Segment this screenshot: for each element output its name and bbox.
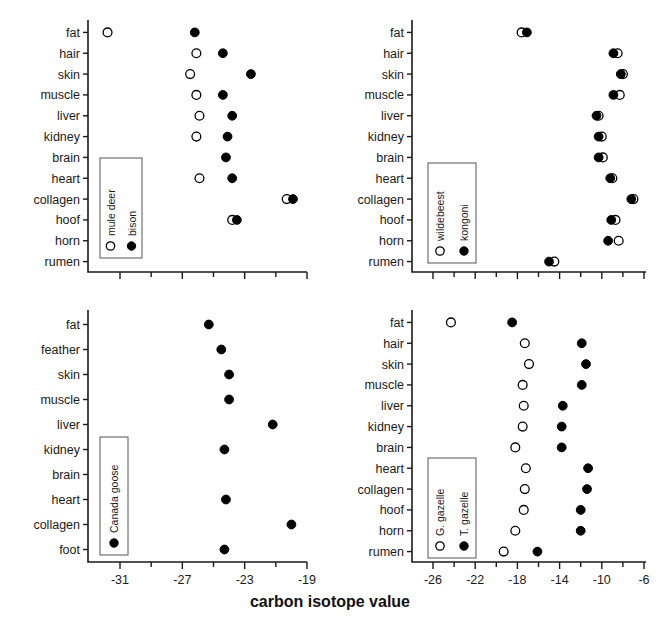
legend-label-wildebeest: wildebeest [434, 191, 446, 242]
category-label-kidney: kidney [368, 420, 405, 434]
category-label-muscle: muscle [40, 393, 80, 407]
category-label-kidney: kidney [368, 130, 405, 144]
category-label-liver: liver [57, 418, 80, 432]
data-point-g--gazelle [518, 381, 527, 390]
data-point-t--gazelle [582, 360, 591, 369]
data-point-bison [232, 216, 241, 225]
data-point-g--gazelle [447, 318, 456, 327]
legend-marker-t--gazelle[interactable] [460, 542, 468, 550]
category-label-hoof: hoof [56, 213, 81, 227]
figure-container: fathairskinmuscleliverkidneybrainheartco… [0, 0, 660, 632]
data-point-t--gazelle [558, 401, 567, 410]
category-label-rumen: rumen [45, 255, 80, 269]
data-point-canada-goose [204, 320, 213, 329]
data-point-g--gazelle [520, 339, 529, 348]
legend-bottom-right[interactable]: G. gazelleT. gazelle [428, 458, 476, 558]
category-label-brain: brain [376, 151, 404, 165]
category-label-hoof: hoof [380, 503, 405, 517]
x-tick-label: -10 [593, 573, 611, 587]
legend-marker-bison[interactable] [127, 242, 135, 250]
legend-marker-wildebeest[interactable] [436, 247, 444, 255]
category-label-fat: fat [390, 26, 404, 40]
category-label-skin: skin [382, 358, 404, 372]
data-point-g--gazelle [519, 506, 528, 515]
legend-marker-canada-goose[interactable] [110, 539, 118, 547]
legend-top-right[interactable]: wildebeestkongoni [428, 163, 476, 263]
category-label-hoof: hoof [380, 213, 405, 227]
category-label-hair: hair [59, 47, 80, 61]
data-point-mule-deer [195, 174, 204, 183]
category-label-kidney: kidney [44, 130, 81, 144]
category-label-heart: heart [376, 462, 405, 476]
data-point-bison [228, 111, 237, 120]
legend-label-kongoni: kongoni [458, 204, 470, 241]
category-label-feather: feather [41, 343, 80, 357]
category-label-collagen: collagen [357, 193, 404, 207]
data-point-kongoni [545, 257, 554, 266]
data-point-mule-deer [192, 132, 201, 141]
data-point-mule-deer [195, 111, 204, 120]
category-label-horn: horn [379, 234, 404, 248]
category-label-horn: horn [55, 234, 80, 248]
legend-bottom-left[interactable]: Canada goose [100, 437, 128, 555]
legend-label-canada-goose: Canada goose [108, 465, 120, 533]
data-point-kongoni [616, 70, 625, 79]
legend-marker-mule-deer[interactable] [106, 242, 114, 250]
category-label-collagen: collagen [33, 518, 80, 532]
data-point-kongoni [594, 153, 603, 162]
legend-label-mule-deer: mule deer [105, 189, 117, 236]
category-label-brain: brain [376, 441, 404, 455]
legend-label-t--gazelle: T. gazelle [458, 491, 470, 536]
category-label-rumen: rumen [369, 255, 404, 269]
category-label-brain: brain [52, 151, 80, 165]
panel-bottom-left: fatfeatherskinmuscleliverkidneybrainhear… [33, 310, 316, 587]
category-label-fat: fat [390, 316, 404, 330]
data-point-mule-deer [192, 49, 201, 58]
category-label-hair: hair [383, 47, 404, 61]
data-point-t--gazelle [508, 318, 517, 327]
data-point-kongoni [607, 216, 616, 225]
data-point-bison [218, 91, 227, 100]
data-point-g--gazelle [511, 526, 520, 535]
data-point-kongoni [592, 111, 601, 120]
category-label-collagen: collagen [357, 483, 404, 497]
category-label-heart: heart [52, 172, 81, 186]
x-tick-label: -26 [424, 573, 442, 587]
legend-label-bison: bison [126, 211, 138, 236]
data-point-bison [289, 195, 298, 204]
category-label-skin: skin [382, 68, 404, 82]
legend-marker-kongoni[interactable] [460, 247, 468, 255]
data-point-kongoni [609, 91, 618, 100]
category-label-brain: brain [52, 468, 80, 482]
data-point-t--gazelle [577, 339, 586, 348]
data-point-t--gazelle [557, 422, 566, 431]
legend-top-left[interactable]: mule deerbison [100, 158, 142, 258]
data-point-bison [218, 49, 227, 58]
data-point-t--gazelle [533, 547, 542, 556]
category-label-rumen: rumen [369, 545, 404, 559]
data-point-t--gazelle [577, 381, 586, 390]
data-point-g--gazelle [519, 401, 528, 410]
data-point-wildebeest [614, 236, 623, 245]
data-point-bison [247, 70, 256, 79]
data-point-kongoni [606, 174, 615, 183]
data-point-bison [190, 28, 199, 37]
category-label-heart: heart [376, 172, 405, 186]
x-tick-label: -18 [508, 573, 526, 587]
category-label-fat: fat [66, 318, 80, 332]
legend-marker-g--gazelle[interactable] [436, 542, 444, 550]
data-point-canada-goose [287, 520, 296, 529]
panel-bottom-right: fathairskinmuscleliverkidneybrainheartco… [357, 310, 649, 587]
data-point-t--gazelle [557, 443, 566, 452]
category-label-skin: skin [58, 68, 80, 82]
category-label-collagen: collagen [33, 193, 80, 207]
data-point-t--gazelle [584, 464, 593, 473]
x-tick-label: -19 [298, 573, 316, 587]
category-label-hair: hair [383, 337, 404, 351]
category-label-skin: skin [58, 368, 80, 382]
data-point-g--gazelle [525, 360, 534, 369]
data-point-t--gazelle [576, 526, 585, 535]
data-point-canada-goose [220, 545, 229, 554]
data-point-bison [228, 174, 237, 183]
category-label-liver: liver [381, 109, 404, 123]
